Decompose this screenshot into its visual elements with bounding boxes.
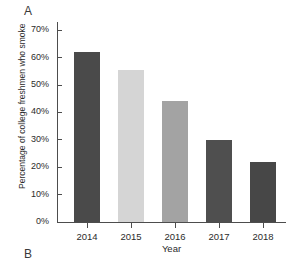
bar xyxy=(206,140,232,222)
x-tick-mark xyxy=(219,223,220,228)
bar xyxy=(250,162,276,222)
plot-area: 0%10%20%30%40%50%60%70% 2014201520162017… xyxy=(57,22,269,223)
y-tick-mark xyxy=(57,112,62,113)
panel-label-b: B xyxy=(24,248,32,260)
x-tick-mark xyxy=(131,223,132,228)
x-axis-line xyxy=(57,222,286,223)
bar xyxy=(162,101,188,222)
y-tick-label: 20% xyxy=(31,161,49,172)
x-tick-label: 2018 xyxy=(235,231,286,243)
x-tick-mark xyxy=(175,223,176,228)
x-tick-mark xyxy=(263,223,264,228)
y-tick-label: 70% xyxy=(31,24,49,35)
y-axis-title: Percentage of college freshmen who smoke xyxy=(18,16,27,196)
y-tick-label: 0% xyxy=(36,216,49,227)
y-tick-mark xyxy=(57,57,62,58)
bar xyxy=(74,52,100,222)
y-tick-label: 30% xyxy=(31,134,49,145)
y-tick-mark xyxy=(57,30,62,31)
y-tick-mark xyxy=(57,194,62,195)
y-axis-line xyxy=(57,22,58,223)
y-tick-label: 50% xyxy=(31,79,49,90)
x-axis-title: Year xyxy=(57,243,286,255)
bar xyxy=(118,70,144,222)
x-tick-mark xyxy=(87,223,88,228)
y-tick-mark xyxy=(57,222,62,223)
y-tick-mark xyxy=(57,85,62,86)
y-tick-label: 60% xyxy=(31,52,49,63)
y-tick-label: 40% xyxy=(31,106,49,117)
y-tick-mark xyxy=(57,139,62,140)
y-tick-label: 10% xyxy=(31,189,49,200)
bar-chart-figure: Percentage of college freshmen who smoke… xyxy=(0,16,286,248)
y-tick-mark xyxy=(57,167,62,168)
